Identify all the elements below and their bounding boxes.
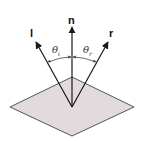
label-r: r — [109, 27, 114, 39]
label-theta-i-subscript: i — [58, 50, 60, 57]
label-theta-r-subscript: r — [89, 50, 93, 57]
angle-arc-theta-r — [73, 57, 96, 62]
label-l: l — [30, 27, 33, 39]
label-n: n — [68, 14, 75, 26]
diagram-svg: l n r θ i θ r — [0, 0, 145, 141]
reflection-diagram: l n r θ i θ r — [0, 0, 145, 141]
angle-arc-theta-i — [48, 57, 71, 62]
